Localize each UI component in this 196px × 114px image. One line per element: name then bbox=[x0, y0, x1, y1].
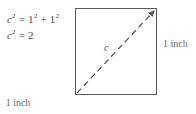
eq1-term1-exponent: 2 bbox=[34, 12, 38, 20]
eq2-lhs-exponent: 2 bbox=[12, 28, 16, 36]
equation-line-2: c2 = 2 bbox=[7, 27, 59, 43]
eq1-equals-sign: = bbox=[19, 13, 25, 25]
eq1-term2-exponent: 2 bbox=[56, 12, 60, 20]
equation-block: c2 = 12 + 12 c2 = 2 bbox=[7, 11, 59, 43]
bottom-side-label: 1 inch bbox=[6, 97, 31, 108]
bottom-side-label-container: 1 inch bbox=[0, 97, 196, 108]
diagonal-arrow-icon bbox=[75, 8, 157, 95]
eq1-plus-sign: + bbox=[40, 13, 46, 25]
diagram-canvas: c2 = 12 + 12 c2 = 2 c 1 inch 1 inch bbox=[0, 0, 196, 114]
eq2-equals-sign: = bbox=[19, 29, 25, 41]
eq1-lhs-exponent: 2 bbox=[12, 12, 16, 20]
eq2-rhs-value: 2 bbox=[28, 29, 34, 41]
right-side-label: 1 inch bbox=[163, 38, 188, 49]
equation-line-1: c2 = 12 + 12 bbox=[7, 11, 59, 27]
diagonal-label: c bbox=[104, 42, 108, 53]
